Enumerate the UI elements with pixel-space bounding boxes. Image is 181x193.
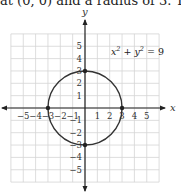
y-tick-label: 2 (77, 78, 82, 88)
y-tick-label: −5 (69, 165, 82, 175)
x-tick-label: 4 (132, 111, 137, 121)
y-tick-label: 1 (77, 91, 82, 101)
y-tick-label: 4 (77, 54, 82, 64)
x-tick-label: −2 (54, 111, 67, 121)
y-tick-label: 5 (77, 41, 82, 51)
equation-part: = 9 (144, 46, 164, 57)
x-tick-label: 1 (95, 111, 100, 121)
x-tick-label: 5 (144, 111, 149, 121)
intercept-point (120, 106, 124, 110)
x-tick-label: 2 (107, 111, 112, 121)
y-axis-label: y (81, 6, 88, 17)
x-axis-arrow-left (1, 106, 7, 111)
circle-graph: −5−4−3−2−11234554321−1−2−3−4−5 x y x2 + … (0, 0, 181, 193)
x-axis-label: x (170, 102, 176, 113)
y-axis-arrow-down (83, 186, 88, 192)
intercept-point (83, 69, 87, 73)
intercept-point (83, 143, 87, 147)
x-axis-arrow-right (160, 106, 166, 111)
y-axis-arrow-up (83, 19, 88, 25)
intercept-point (46, 106, 50, 110)
equation-annotation: x2 + y2 = 9 (111, 45, 164, 57)
y-tick-label: −2 (69, 128, 82, 138)
x-tick-label: −5 (17, 111, 30, 121)
x-tick-label: −4 (29, 111, 42, 121)
y-tick-label: −4 (69, 152, 82, 162)
equation-part: + (120, 46, 134, 57)
y-tick-label: −1 (69, 115, 82, 125)
